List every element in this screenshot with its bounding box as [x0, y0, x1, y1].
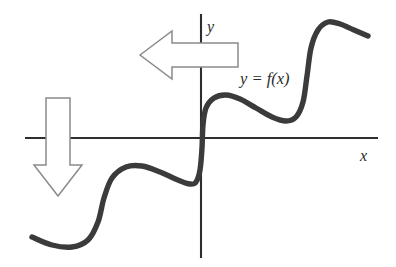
y-axis-label: y	[205, 18, 215, 36]
left-arrow-shape	[140, 31, 238, 79]
x-axis-label: x	[359, 147, 367, 164]
down-block-arrow	[34, 98, 82, 196]
function-graph-figure: y x y = f(x)	[0, 0, 396, 267]
graph-canvas: y x y = f(x)	[0, 0, 396, 267]
left-block-arrow	[140, 31, 238, 79]
curve-equation-label: y = f(x)	[238, 69, 290, 88]
down-arrow-shape	[34, 98, 82, 196]
